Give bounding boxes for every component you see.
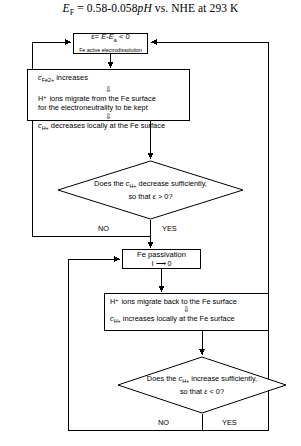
node-decision-decrease[interactable]: Does the cH+ decrease sufficiently, so t… — [57, 160, 244, 220]
decision2-line1: Does the cH+ increase sufficiently, — [147, 374, 257, 387]
decision1-text: Does the cH+ decrease sufficiently, so t… — [57, 160, 244, 220]
process2-line2: cH+ increases locally at the Fe surface — [105, 314, 268, 327]
decision1-yes-label: YES — [162, 224, 177, 233]
node-process-dissolution[interactable]: cFe2+ increases ⇩ H⁺ ions migrate from t… — [27, 69, 190, 121]
active-condition: ε= E-Ea < 0 — [91, 32, 130, 45]
decision2-line2: so that ε < 0? — [180, 387, 224, 397]
process1-line1: cFe2+ increases — [28, 73, 189, 86]
active-description: Fe active electrodissolution — [79, 46, 142, 55]
passivation-current: I⟶0 — [152, 259, 172, 268]
decision1-line2: so that ε > 0? — [128, 192, 172, 202]
node-process-repassivation[interactable]: H⁺ ions migrate back to the Fe surface ⇩… — [104, 293, 269, 331]
decision1-line1: Does the cH+ decrease sufficiently, — [94, 179, 207, 192]
down-arrow-icon: ⇩ — [28, 86, 189, 94]
node-decision-increase[interactable]: Does the cH+ increase sufficiently, so t… — [117, 356, 287, 414]
decision2-no-label: NO — [158, 418, 169, 427]
passivation-title: Fe passivation — [137, 250, 186, 259]
process1-line2: H⁺ ions migrate from the Fe surface — [28, 94, 189, 103]
down-arrow-icon: ⇩ — [105, 306, 268, 314]
process1-line4: cH+ decreases locally at the Fe surface — [28, 121, 189, 134]
decision2-text: Does the cH+ increase sufficiently, so t… — [117, 356, 287, 414]
decision1-no-label: NO — [98, 224, 109, 233]
node-passivation[interactable]: Fe passivation I⟶0 — [122, 249, 201, 269]
decision2-yes-label: YES — [222, 418, 237, 427]
right-arrow-icon: ⟶ — [156, 259, 166, 268]
node-active-dissolution[interactable]: ε= E-Ea < 0 Fe active electrodissolution — [73, 33, 148, 54]
down-arrow-icon: ⇩ — [28, 113, 189, 121]
flowchart-canvas: EF = 0.58-0.058pH vs. NHE at 293 K — [0, 0, 301, 446]
